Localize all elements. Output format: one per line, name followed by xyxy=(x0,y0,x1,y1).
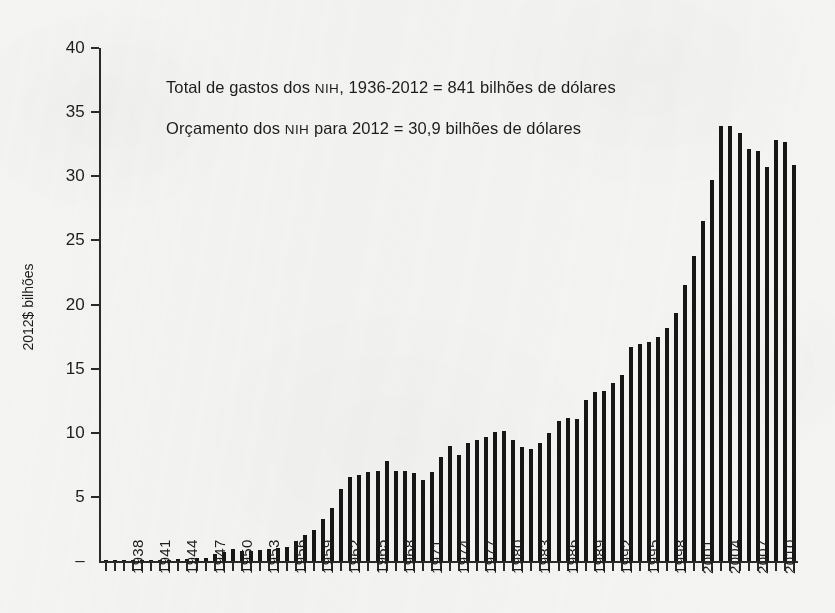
x-tick-mark-1962 xyxy=(340,563,342,571)
bar-1937 xyxy=(113,560,117,561)
x-tick-mark-1956 xyxy=(286,563,288,571)
x-tick-mark-1959 xyxy=(313,563,315,571)
x-tick-mark-2007 xyxy=(748,563,750,571)
x-tick-label-1965: 1965 xyxy=(374,539,389,574)
x-tick-mark-2001 xyxy=(693,563,695,571)
x-tick-mark-1977 xyxy=(476,563,478,571)
bar-2012 xyxy=(792,165,796,561)
bar-1999 xyxy=(674,313,678,561)
bar-1998 xyxy=(665,328,669,561)
bar-1995 xyxy=(638,344,642,561)
x-tick-mark-1995 xyxy=(639,563,641,571)
bar-1971 xyxy=(421,480,425,561)
bar-1953 xyxy=(258,550,262,561)
bar-2001 xyxy=(692,256,696,561)
x-tick-label-1983: 1983 xyxy=(537,539,552,574)
bar-1992 xyxy=(611,383,615,561)
bar-1936 xyxy=(104,560,108,561)
bar-1965 xyxy=(366,472,370,561)
x-tick-mark-1998 xyxy=(666,563,668,571)
bar-1986 xyxy=(557,421,561,561)
x-tick-label-1938: 1938 xyxy=(130,539,145,574)
bar-1983 xyxy=(529,449,533,561)
bar-2003 xyxy=(710,180,714,561)
bar-2009 xyxy=(765,167,769,561)
x-tick-label-1956: 1956 xyxy=(293,539,308,574)
annotation-total-suffix: , 1936-2012 = 841 bilhões de dólares xyxy=(339,78,616,96)
x-tick-mark-1947 xyxy=(205,563,207,571)
x-tick-mark-2010 xyxy=(775,563,777,571)
bar-1938 xyxy=(122,560,126,561)
x-tick-label-2004: 2004 xyxy=(727,539,742,574)
bar-1959 xyxy=(312,530,316,561)
x-tick-label-1974: 1974 xyxy=(456,539,471,574)
bar-2008 xyxy=(756,151,760,561)
x-tick-mark-1936 xyxy=(105,563,107,571)
x-tick-mark-1944 xyxy=(177,563,179,571)
bar-2010 xyxy=(774,140,778,561)
bar-1993 xyxy=(620,375,624,561)
x-tick-mark-1980 xyxy=(503,563,505,571)
bar-2011 xyxy=(783,142,787,561)
x-tick-mark-1986 xyxy=(558,563,560,571)
x-tick-mark-1937 xyxy=(114,563,116,571)
bar-2002 xyxy=(701,221,705,561)
bar-2007 xyxy=(747,149,751,561)
x-tick-label-1968: 1968 xyxy=(402,539,417,574)
x-tick-label-1977: 1977 xyxy=(483,539,498,574)
x-tick-mark-1971 xyxy=(422,563,424,571)
x-tick-mark-1992 xyxy=(612,563,614,571)
x-tick-mark-1968 xyxy=(395,563,397,571)
bar-1996 xyxy=(647,342,651,561)
x-tick-label-1998: 1998 xyxy=(673,539,688,574)
annotation-total-prefix: Total de gastos dos xyxy=(166,78,315,96)
x-tick-label-2001: 2001 xyxy=(700,539,715,574)
x-tick-label-1950: 1950 xyxy=(239,539,254,574)
annotation-budget-acronym: NIH xyxy=(285,122,309,137)
bar-1989 xyxy=(584,400,588,561)
x-tick-mark-1950 xyxy=(232,563,234,571)
x-tick-label-1992: 1992 xyxy=(619,539,634,574)
x-tick-label-1962: 1962 xyxy=(347,539,362,574)
bar-1944 xyxy=(176,559,180,561)
bar-1997 xyxy=(656,337,660,561)
bar-1956 xyxy=(285,547,289,561)
bar-1950 xyxy=(231,549,235,561)
annotation-budget-suffix: para 2012 = 30,9 bilhões de dólares xyxy=(309,119,581,137)
bar-1994 xyxy=(629,347,633,561)
x-tick-mark-1983 xyxy=(530,563,532,571)
bar-2006 xyxy=(738,133,742,561)
x-tick-label-1980: 1980 xyxy=(510,539,525,574)
bar-2004 xyxy=(719,126,723,561)
x-tick-label-1947: 1947 xyxy=(212,539,227,574)
bar-1990 xyxy=(593,392,597,561)
x-tick-mark-1953 xyxy=(259,563,261,571)
bar-1977 xyxy=(475,440,479,561)
bar-2000 xyxy=(683,285,687,561)
bar-1980 xyxy=(502,431,506,561)
x-tick-label-2010: 2010 xyxy=(782,539,797,574)
x-tick-mark-1938 xyxy=(123,563,125,571)
bar-1991 xyxy=(602,391,606,561)
annotation-budget-2012: Orçamento dos NIH para 2012 = 30,9 bilhõ… xyxy=(166,118,581,140)
x-tick-mark-2004 xyxy=(720,563,722,571)
bar-1968 xyxy=(394,471,398,561)
x-tick-label-2007: 2007 xyxy=(755,539,770,574)
x-tick-label-1986: 1986 xyxy=(565,539,580,574)
bar-1962 xyxy=(339,489,343,561)
bar-1974 xyxy=(448,446,452,561)
x-tick-label-1995: 1995 xyxy=(646,539,661,574)
x-tick-label-1959: 1959 xyxy=(320,539,335,574)
annotation-total-acronym: NIH xyxy=(315,81,339,96)
bar-1941 xyxy=(149,560,153,561)
x-tick-label-1953: 1953 xyxy=(266,539,281,574)
x-tick-mark-1941 xyxy=(150,563,152,571)
annotation-total-spending: Total de gastos dos NIH, 1936-2012 = 841… xyxy=(166,77,616,99)
plot-area: –510152025303540 2012$ bilhões 193819411… xyxy=(0,0,835,613)
annotation-budget-prefix: Orçamento dos xyxy=(166,119,285,137)
x-tick-label-1941: 1941 xyxy=(157,539,172,574)
chart-figure: –510152025303540 2012$ bilhões 193819411… xyxy=(0,0,835,613)
bar-2005 xyxy=(728,126,732,561)
x-tick-mark-1989 xyxy=(585,563,587,571)
x-tick-label-1944: 1944 xyxy=(184,539,199,574)
